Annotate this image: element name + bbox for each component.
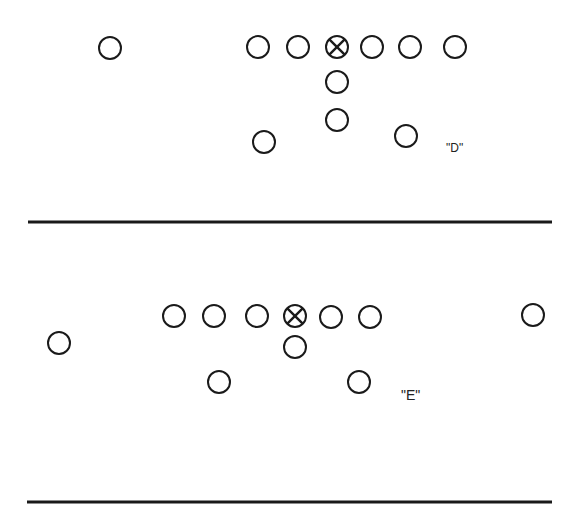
player-circle-icon <box>208 371 230 393</box>
player-circle-icon <box>361 36 383 58</box>
player-circle-icon <box>48 332 70 354</box>
player-circle-icon <box>348 371 370 393</box>
player-circle-icon <box>284 336 306 358</box>
player-circle-icon <box>287 36 309 58</box>
player-circle-icon <box>320 306 342 328</box>
formation-e <box>27 304 552 502</box>
formation-d <box>28 36 552 222</box>
player-circle-icon <box>203 305 225 327</box>
center-player-icon <box>326 36 348 58</box>
formation-label-d: "D" <box>446 141 463 155</box>
player-circle-icon <box>163 305 185 327</box>
player-circle-icon <box>99 37 121 59</box>
player-circle-icon <box>253 131 275 153</box>
formation-label-e: "E" <box>401 387 420 403</box>
player-circle-icon <box>326 71 348 93</box>
player-circle-icon <box>326 109 348 131</box>
player-circle-icon <box>522 304 544 326</box>
player-circle-icon <box>444 36 466 58</box>
player-circle-icon <box>247 36 269 58</box>
player-circle-icon <box>359 306 381 328</box>
center-player-icon <box>284 305 306 327</box>
player-circle-icon <box>246 305 268 327</box>
player-circle-icon <box>395 125 417 147</box>
player-circle-icon <box>399 36 421 58</box>
formation-diagram <box>0 0 578 529</box>
